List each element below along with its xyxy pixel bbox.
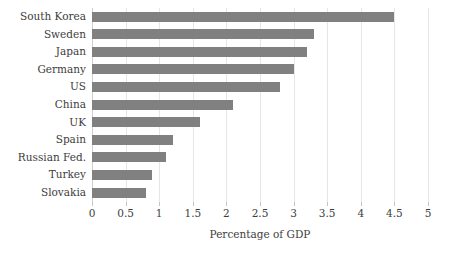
- x-tick: [361, 202, 362, 206]
- bar-series: [92, 8, 428, 202]
- category-label: UK: [0, 114, 86, 132]
- category-label: Germany: [0, 61, 86, 79]
- bar-row: [92, 131, 428, 149]
- y-axis-category-labels: South KoreaSwedenJapanGermanyUSChinaUKSp…: [0, 8, 86, 202]
- x-tick: [159, 202, 160, 206]
- bar-row: [92, 26, 428, 44]
- x-tick: [428, 202, 429, 206]
- bar-row: [92, 61, 428, 79]
- bar: [92, 117, 200, 127]
- bar: [92, 64, 294, 74]
- x-tick: [193, 202, 194, 206]
- bar-row: [92, 166, 428, 184]
- x-tick-label: 4.5: [386, 207, 403, 219]
- x-tick-label: 0: [89, 207, 96, 219]
- x-tick-label: 5: [425, 207, 432, 219]
- bar-row: [92, 149, 428, 167]
- x-tick-label: 0.5: [117, 207, 134, 219]
- bar: [92, 12, 394, 22]
- bar-row: [92, 114, 428, 132]
- x-tick: [294, 202, 295, 206]
- x-tick-label: 4: [357, 207, 364, 219]
- bar: [92, 100, 233, 110]
- category-label: Slovakia: [0, 184, 86, 202]
- x-tick-label: 3.5: [319, 207, 336, 219]
- bar-row: [92, 78, 428, 96]
- x-tick: [260, 202, 261, 206]
- bar-row: [92, 8, 428, 26]
- gridline: [428, 8, 429, 202]
- x-tick: [226, 202, 227, 206]
- category-label: Japan: [0, 43, 86, 61]
- x-tick: [126, 202, 127, 206]
- bar-row: [92, 184, 428, 202]
- bar: [92, 47, 307, 57]
- x-axis-title: Percentage of GDP: [92, 228, 428, 240]
- x-tick: [394, 202, 395, 206]
- category-label: Turkey: [0, 166, 86, 184]
- category-label: Russian Fed.: [0, 149, 86, 167]
- bar-chart-figure: South KoreaSwedenJapanGermanyUSChinaUKSp…: [0, 0, 452, 253]
- category-label: Spain: [0, 131, 86, 149]
- x-tick-label: 1.5: [184, 207, 201, 219]
- x-axis-tick-labels: 00.511.522.533.544.55: [92, 207, 428, 223]
- category-label: South Korea: [0, 8, 86, 26]
- x-tick-label: 2.5: [252, 207, 269, 219]
- bar: [92, 152, 166, 162]
- x-tick: [92, 202, 93, 206]
- x-tick: [327, 202, 328, 206]
- x-tick-label: 1: [156, 207, 163, 219]
- category-label: China: [0, 96, 86, 114]
- x-tick-label: 3: [290, 207, 297, 219]
- bar: [92, 82, 280, 92]
- bar: [92, 135, 173, 145]
- category-label: US: [0, 78, 86, 96]
- bar: [92, 188, 146, 198]
- bar-row: [92, 43, 428, 61]
- bar: [92, 29, 314, 39]
- bar-row: [92, 96, 428, 114]
- x-tick-label: 2: [223, 207, 230, 219]
- bar: [92, 170, 152, 180]
- plot-area: [92, 8, 428, 202]
- category-label: Sweden: [0, 26, 86, 44]
